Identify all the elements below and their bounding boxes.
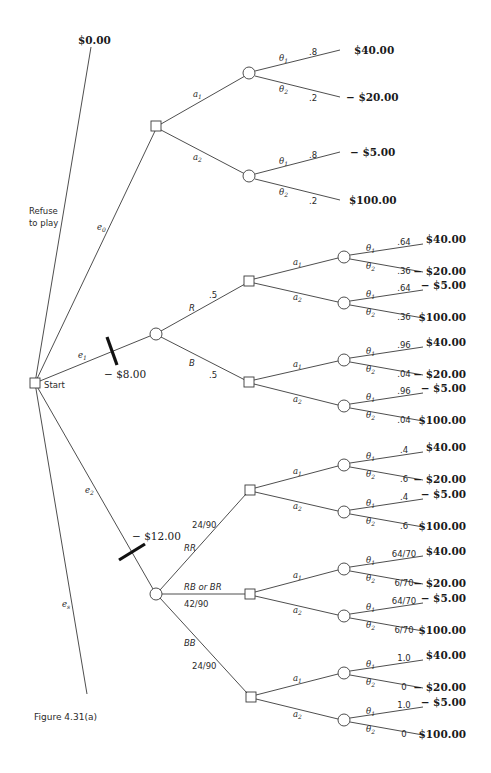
prob-theta1: 1.0 [397,653,411,663]
state-theta2-label: θ2 [366,261,375,272]
edge-theta2 [350,362,423,375]
state-theta2-label: θ2 [366,620,375,631]
edge-e1-R [161,284,245,331]
payoff: − $5.00 [421,592,466,604]
cost-e1: − $8.00 [104,368,146,380]
edge-theta2 [350,675,423,688]
edge-theta2 [350,305,423,318]
chance-node-e2_RB-a1 [338,563,350,575]
payoff: $100.00 [419,414,467,426]
payoff: − $20.00 [413,577,466,589]
decision-node-e1_R [244,276,254,286]
outcome-RB-prob: 42/90 [184,599,209,609]
prob-theta1: .96 [397,386,411,396]
state-theta1-label: θ1 [366,659,375,670]
chance-node-e2_RR-a2 [338,506,350,518]
payoff: − $20.00 [346,91,399,103]
experiment-e1-label: e1 [78,350,87,361]
outcome-RR-label: RR [184,543,196,553]
decision-node-e1_B [244,377,254,387]
start-decision-node [30,378,40,388]
figure-caption: Figure 4.31(a) [34,712,97,722]
state-theta2-label: θ2 [279,187,288,198]
chance-node-e1_R-a1 [338,251,350,263]
state-theta1-label: θ1 [366,602,375,613]
prob-theta1: .64 [397,237,411,247]
chance-node-e2_RB-a2 [338,610,350,622]
edge-es [35,383,87,694]
edge-theta1 [350,660,423,671]
cost-mark-e1 [107,337,117,365]
payoff: $100.00 [419,311,467,323]
outcome-RR-prob: 24/90 [192,520,217,530]
edge [255,50,340,71]
state-theta2-label: θ2 [366,573,375,584]
edge [255,76,340,97]
prob-theta2: 6/70 [394,578,413,588]
experiment-e0-label: e0 [97,222,106,233]
decision-node-e2_RR [245,485,255,495]
prob-theta1: 1.0 [397,700,411,710]
state-theta1-label: θ1 [366,555,375,566]
payoff: $100.00 [419,624,467,636]
state-theta1-label: θ1 [279,156,288,167]
payoff: $40.00 [426,545,466,557]
state-theta2-label: θ2 [366,516,375,527]
edge-theta2 [350,467,423,480]
prob-theta2: .6 [400,474,408,484]
prob-theta2: 0 [401,682,406,692]
payoff: $40.00 [426,336,466,348]
experiment-es-label: es [62,599,70,610]
prob-theta2: .04 [397,369,411,379]
state-theta2-label: θ2 [366,469,375,480]
edge-theta1 [350,347,423,358]
decision-node-e2_BB [246,692,256,702]
payoff: $100.00 [419,728,467,740]
state-theta2-label: θ2 [366,364,375,375]
cost-mark-e2 [119,544,145,560]
subtree-e1_B: a1a2θ1θ2.96.04$40.00− $20.00θ1θ2.96.04− … [244,336,466,426]
prob: .8 [309,47,317,57]
edge-theta2 [350,722,423,735]
edge-theta1 [350,290,423,301]
state-theta2-label: θ2 [279,84,288,95]
state-theta1-label: θ1 [366,498,375,509]
edge-theta1 [350,499,423,510]
outcome-R-label: R [189,303,195,313]
state-theta2-label: θ2 [366,677,375,688]
edge-theta2 [350,259,423,272]
prob-theta1: .64 [397,283,411,293]
decision-tree-diagram: $0.00 Refuse to play Start e0 e1 e2 es −… [0,0,491,773]
subtree-e2_RB: a1a2θ1θ264/706/70$40.00− $20.00θ1θ264/70… [245,545,466,636]
prob-theta2: 0 [401,729,406,739]
action-a1-label: a1 [293,673,302,684]
chance-node-e2_RR-a1 [338,459,350,471]
chance-node-e1 [150,328,162,340]
state-theta2-label: θ2 [366,724,375,735]
edge-theta2 [350,408,423,421]
prob-theta2: .6 [400,521,408,531]
decision-node-e0 [151,121,161,131]
refuse-payoff: $0.00 [78,34,111,46]
edge-e0-a1 [161,76,245,124]
payoff: $40.00 [426,233,466,245]
edge-e2-BB [160,598,247,693]
edge-e0 [35,131,155,383]
edge-e2-RR [160,494,246,590]
state-theta1-label: θ1 [279,53,288,64]
prob-theta1: .96 [397,340,411,350]
prob-theta2: .36 [397,312,411,322]
chance-node-e0-a1 [243,67,255,79]
edge-theta2 [350,514,423,527]
subtree-e1_R: a1a2θ1θ2.64.36$40.00− $20.00θ1θ2.64.36− … [244,233,466,323]
edge-e0-a2 [161,130,245,174]
payoff: − $5.00 [350,146,395,158]
edge [255,152,340,174]
prob-theta1: 64/70 [392,549,417,559]
outcome-BB-prob: 24/90 [192,661,217,671]
state-theta1-label: θ1 [366,392,375,403]
prob-theta1: .4 [400,492,408,502]
state-theta1-label: θ1 [366,451,375,462]
edge-theta1 [350,707,423,718]
state-theta1-label: θ1 [366,243,375,254]
